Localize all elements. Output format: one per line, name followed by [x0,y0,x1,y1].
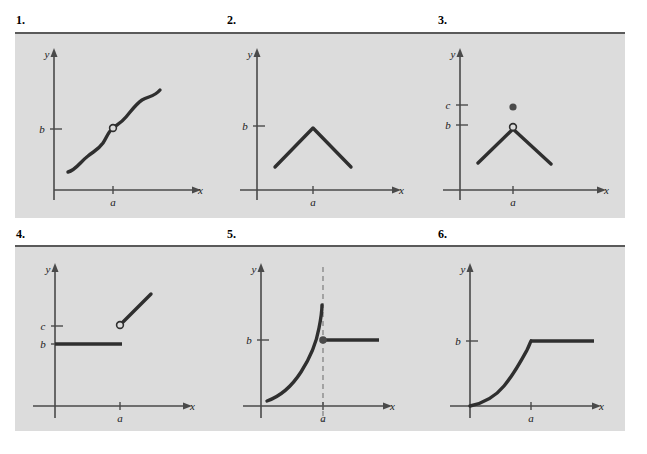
panel-number-2: 2. [227,14,236,26]
panel-band-top [15,32,625,218]
panel-number-3: 3. [438,14,447,26]
panel-number-4: 4. [16,228,25,240]
panel-band-bottom [15,245,625,431]
figure-root: 1. 2. 3. 4. 5. 6. x y a b [0,0,647,454]
panel-number-5: 5. [227,228,236,240]
panel-number-1: 1. [16,14,25,26]
panel-number-6: 6. [438,228,447,240]
